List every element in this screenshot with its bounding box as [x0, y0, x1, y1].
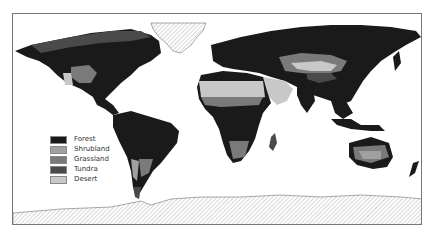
world-map [13, 14, 422, 225]
japan [393, 51, 401, 71]
legend-label: Desert [74, 175, 97, 183]
legend-item-tundra: Tundra [50, 166, 130, 175]
shrubland-swatch [50, 146, 67, 154]
legend-label: Grassland [74, 155, 109, 163]
legend-label: Shrubland [74, 145, 110, 153]
central-america [93, 97, 119, 115]
legend-item-desert: Desert [50, 176, 130, 185]
india [297, 87, 315, 113]
desert-swatch [50, 176, 67, 184]
antarctica [13, 195, 422, 225]
legend-item-grassland: Grassland [50, 156, 130, 165]
sa-tip [133, 187, 141, 199]
legend-item-shrubland: Shrubland [50, 146, 130, 155]
indonesia [331, 119, 385, 131]
forest-swatch [50, 136, 67, 144]
legend-item-forest: Forest [50, 136, 130, 145]
se-asia [331, 101, 353, 119]
legend-label: Forest [74, 135, 95, 143]
grassland-swatch [50, 156, 67, 164]
map-frame: Forest Shrubland Grassland Tundra Desert [12, 13, 422, 225]
nz [409, 161, 419, 177]
legend-label: Tundra [74, 165, 98, 173]
madagascar [269, 133, 277, 151]
tundra-swatch [50, 166, 67, 174]
